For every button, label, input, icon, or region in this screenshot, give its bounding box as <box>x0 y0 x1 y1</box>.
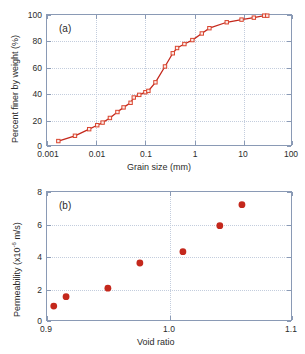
figure-container: (a) 100 80 60 40 20 0 0.001 0.01 0.1 1 1… <box>0 0 305 354</box>
data-point-marker <box>122 106 125 109</box>
y-tick-label: 100 <box>16 11 42 20</box>
x-tick-label: 0.01 <box>82 150 112 159</box>
data-point-marker <box>175 46 178 49</box>
data-point-marker <box>63 293 70 300</box>
panel-b-y-axis-title: Permeability (x10-6 m/s) <box>11 222 22 317</box>
panel-b-series-permeability-points <box>47 192 293 322</box>
x-tick-label: 1 <box>180 150 210 159</box>
data-point-marker <box>183 42 186 45</box>
data-point-marker <box>191 38 194 41</box>
data-point-marker <box>136 260 143 267</box>
panel-a-grain-size-distribution: (a) 100 80 60 40 20 0 0.001 0.01 0.1 1 1… <box>0 0 305 177</box>
data-point-marker <box>108 116 111 119</box>
y-axis-title-exponent: -6 <box>11 242 17 247</box>
data-point-marker <box>163 65 166 68</box>
panel-a-x-axis-title: Grain size (mm) <box>127 163 191 172</box>
data-point-marker <box>132 96 135 99</box>
data-point-marker <box>57 139 60 142</box>
data-point-marker <box>252 16 255 19</box>
data-point-marker <box>101 121 104 124</box>
data-point-marker <box>208 27 211 30</box>
data-point-marker <box>96 124 99 127</box>
data-point-marker <box>171 52 174 55</box>
y-axis-title-suffix: m/s) <box>12 222 22 242</box>
data-point-marker <box>216 222 223 229</box>
data-point-marker <box>266 14 269 17</box>
data-point-marker <box>240 18 243 21</box>
x-tick-label: 0.001 <box>33 150 63 159</box>
y-tick-label: 8 <box>16 188 42 197</box>
data-point-marker <box>87 127 90 130</box>
data-point-marker <box>147 89 150 92</box>
data-point-marker <box>180 248 187 255</box>
panel-b-permeability-void-ratio: (b) 8 6 4 2 0 0.9 1.0 1.1 Void ratio Per… <box>0 177 305 354</box>
panel-a-y-axis-title: Percent finer by weight (%) <box>11 35 20 143</box>
x-tick-label: 0.1 <box>131 150 161 159</box>
data-point-marker <box>104 285 111 292</box>
data-point-marker <box>200 32 203 35</box>
x-tick-label: 0.9 <box>33 325 59 334</box>
panel-b-plot-area: (b) <box>46 191 292 321</box>
data-point-marker <box>73 134 76 137</box>
x-tick-label: 1.0 <box>156 325 182 334</box>
x-tick-label: 100 <box>276 150 305 159</box>
data-point-marker <box>239 201 246 208</box>
data-point-marker <box>138 93 141 96</box>
data-point-marker <box>50 303 57 310</box>
y-tick-label: 0 <box>16 317 42 326</box>
data-point-marker <box>116 110 119 113</box>
panel-a-series-gradation-curve <box>47 15 293 147</box>
data-point-marker <box>225 21 228 24</box>
data-point-marker <box>154 81 157 84</box>
x-tick-label: 10 <box>228 150 258 159</box>
panel-a-plot-area: (a) <box>46 14 292 146</box>
data-point-marker <box>129 101 132 104</box>
y-axis-title-prefix: Permeability (x10 <box>12 247 22 317</box>
panel-b-x-axis-title: Void ratio <box>137 338 175 347</box>
x-tick-label: 1.1 <box>278 325 304 334</box>
